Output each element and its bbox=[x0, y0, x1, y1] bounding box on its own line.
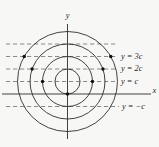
label-y-2c: y = 2c bbox=[120, 64, 143, 73]
label-y-c: y = c bbox=[120, 77, 139, 86]
intersection-dot-y3c-right bbox=[109, 55, 112, 58]
intersection-dot-y3c-left bbox=[23, 55, 26, 58]
level-curves-diagram: y x y = 3c y = 2c y = c y = −c bbox=[0, 0, 159, 147]
intersection-dot-y2c-right bbox=[101, 67, 104, 70]
figure-canvas: y x y = 3c y = 2c y = c y = −c bbox=[0, 0, 159, 147]
intersection-dot-y2c-left bbox=[30, 67, 33, 70]
intersection-dot-yc-left bbox=[41, 80, 44, 83]
label-y-3c: y = 3c bbox=[120, 52, 143, 61]
label-y-minus-c: y = −c bbox=[121, 102, 145, 111]
y-axis-label: y bbox=[65, 11, 70, 20]
intersection-dot-yc-right bbox=[91, 80, 94, 83]
intersection-dot-origin bbox=[66, 92, 69, 95]
x-axis-label: x bbox=[152, 86, 157, 95]
